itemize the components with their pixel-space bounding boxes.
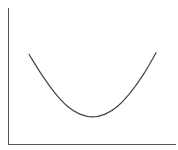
axes [8, 8, 176, 145]
chart [0, 0, 178, 150]
data-curve [29, 53, 156, 117]
